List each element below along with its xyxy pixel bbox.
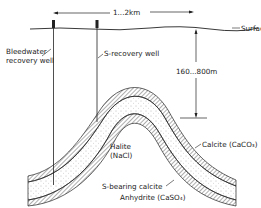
distance-label: 1...2km — [113, 8, 140, 17]
surface-line — [30, 27, 258, 31]
bleedwater-well-label-1: Bleedwater — [6, 47, 47, 56]
salt-dome-cross-section: 1...2km Surface 160...800m Bleedwater re… — [0, 0, 261, 208]
s-bearing-calcite-label: S-bearing calcite — [102, 182, 163, 191]
bleedwater-recovery-well — [52, 20, 55, 185]
anhydrite-label: Anhydrite (CaSO₄) — [120, 193, 186, 202]
s-recovery-well — [96, 20, 99, 122]
surface-label: Surface — [241, 24, 261, 33]
halite-label-2: (NaCl) — [110, 151, 133, 160]
depth-label: 160...800m — [176, 67, 217, 76]
calcite-label: Calcite (CaCO₃) — [202, 140, 258, 149]
bleedwater-well-label-2: recovery well — [6, 56, 54, 65]
s-recovery-well-label: S-recovery well — [104, 49, 159, 58]
halite-label-1: Halite — [110, 142, 132, 151]
